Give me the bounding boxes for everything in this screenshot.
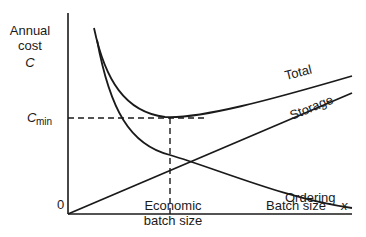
x-var: x (340, 198, 348, 213)
y-label-var: C (25, 55, 35, 70)
ordering-curve (97, 40, 352, 208)
economic-label-line2: batch size (144, 213, 203, 228)
x-label: Batch size (266, 198, 326, 213)
y-label-line2: cost (18, 38, 42, 53)
total-label: Total (283, 62, 313, 83)
storage-label: Storage (288, 92, 336, 123)
y-label-line1: Annual (10, 23, 51, 38)
economic-label-line1: Economic (144, 198, 202, 213)
cmin-subscript: min (36, 116, 52, 127)
origin-label: 0 (57, 197, 64, 212)
economic-batch-size-diagram: Annual cost C C min Total Storage Orderi… (0, 0, 366, 237)
